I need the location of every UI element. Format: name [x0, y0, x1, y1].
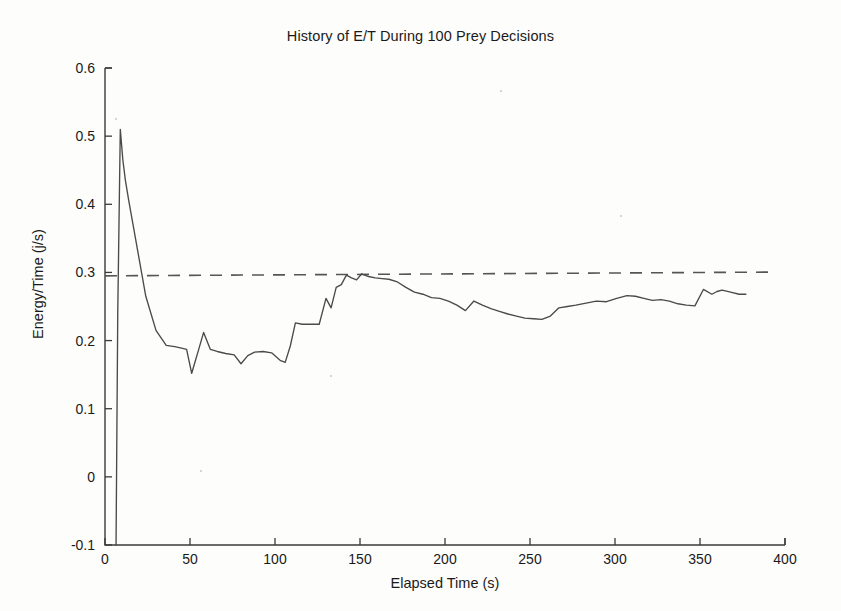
x-axis-tick-labels: 050100150200250300350400 [105, 551, 785, 573]
y-tick-label: 0 [87, 469, 95, 485]
threshold-dashed-line [105, 272, 773, 276]
y-tick-label: 0.1 [76, 401, 95, 417]
plot-area [105, 68, 785, 545]
x-tick-label: 400 [773, 551, 796, 567]
scan-speck [620, 215, 622, 217]
y-tick-label: 0.2 [76, 333, 95, 349]
x-tick-label: 200 [433, 551, 456, 567]
y-tick-label: 0.4 [76, 196, 95, 212]
scan-speck [200, 470, 202, 472]
figure-canvas: History of E/T During 100 Prey Decisions… [0, 0, 841, 611]
x-tick-label: 300 [603, 551, 626, 567]
data-series [116, 129, 746, 545]
threshold-series [105, 272, 773, 276]
x-tick-label: 350 [688, 551, 711, 567]
data-line-0 [116, 129, 746, 545]
axis-spines [105, 68, 785, 545]
x-tick-label: 250 [518, 551, 541, 567]
x-axis-label: Elapsed Time (s) [105, 575, 785, 591]
axes [105, 68, 785, 545]
scan-speck [330, 375, 332, 377]
x-tick-label: 0 [101, 551, 109, 567]
axis-ticks [105, 68, 785, 545]
x-tick-label: 50 [182, 551, 198, 567]
y-tick-label: 0.5 [76, 128, 95, 144]
scan-speck [115, 118, 117, 120]
page-title: History of E/T During 100 Prey Decisions [0, 28, 841, 44]
y-axis-tick-labels: -0.100.10.20.30.40.50.6 [40, 68, 95, 545]
scan-speck [500, 90, 502, 92]
y-tick-label: 0.3 [76, 264, 95, 280]
y-tick-label: 0.6 [76, 60, 95, 76]
y-tick-label: -0.1 [71, 537, 95, 553]
chart-svg [105, 68, 785, 545]
x-tick-label: 150 [348, 551, 371, 567]
x-tick-label: 100 [263, 551, 286, 567]
